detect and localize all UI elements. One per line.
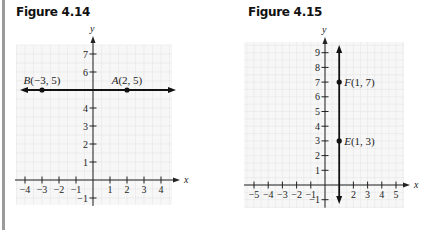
y-tick-label: 1 xyxy=(83,157,88,168)
y-tick-label: 4 xyxy=(315,121,320,132)
figure-4-14-plot: xy−4−3−2−11234−1123467B(−3, 5)A(2, 5) xyxy=(15,23,189,206)
y-axis-label: y xyxy=(89,23,95,34)
y-tick-label: 3 xyxy=(83,121,88,132)
y-tick-label: 6 xyxy=(315,91,320,102)
y-axis-arrow-icon xyxy=(323,37,328,44)
y-tick-label: 4 xyxy=(83,103,88,114)
point-label-E: E(1, 3) xyxy=(343,135,375,148)
x-tick-label: 2 xyxy=(351,189,356,200)
x-tick-label: −4 xyxy=(263,189,274,200)
x-axis-label: x xyxy=(413,179,419,190)
x-axis-label: x xyxy=(183,174,189,185)
y-axis-label: y xyxy=(321,24,327,35)
y-axis-arrow-icon xyxy=(91,36,96,43)
point-E xyxy=(337,138,342,143)
x-tick-label: −3 xyxy=(277,189,288,200)
figure-4-15-plot: xy−5−4−3−2−12345−1123456789F(1, 7)E(1, 3… xyxy=(244,24,419,208)
y-tick-label: 8 xyxy=(315,62,320,73)
point-label-F: F(1, 7) xyxy=(343,76,375,89)
y-tick-label: 5 xyxy=(315,106,320,117)
point-F xyxy=(337,80,342,85)
x-tick-label: −2 xyxy=(291,189,302,200)
x-axis-arrow-icon xyxy=(403,183,410,188)
x-tick-label: −5 xyxy=(249,189,260,200)
x-tick-label: −4 xyxy=(20,184,31,195)
y-tick-label: 6 xyxy=(83,67,88,78)
point-A xyxy=(124,87,129,92)
y-tick-label: 9 xyxy=(315,47,320,58)
y-tick-label: 7 xyxy=(315,77,320,88)
x-tick-label: 4 xyxy=(159,184,164,195)
x-tick-label: 5 xyxy=(394,189,399,200)
y-tick-label: −1 xyxy=(309,194,320,205)
y-tick-label: 3 xyxy=(315,135,320,146)
x-tick-label: −2 xyxy=(54,184,65,195)
y-tick-label: −1 xyxy=(77,193,88,204)
y-tick-label: 2 xyxy=(83,139,88,150)
x-axis-arrow-icon xyxy=(173,178,180,183)
x-tick-label: 4 xyxy=(379,189,384,200)
x-tick-label: 3 xyxy=(142,184,147,195)
x-tick-label: 3 xyxy=(365,189,370,200)
x-tick-label: 1 xyxy=(108,184,113,195)
point-label-B: B(−3, 5) xyxy=(24,74,61,87)
x-tick-label: 2 xyxy=(125,184,130,195)
point-B xyxy=(39,87,44,92)
y-tick-label: 1 xyxy=(315,165,320,176)
figures-canvas: xy−4−3−2−11234−1123467B(−3, 5)A(2, 5) xy… xyxy=(0,0,427,230)
grid-background xyxy=(16,45,172,205)
y-tick-label: 2 xyxy=(315,150,320,161)
y-tick-label: 7 xyxy=(83,49,88,60)
x-tick-label: −3 xyxy=(37,184,48,195)
point-label-A: A(2, 5) xyxy=(111,74,143,87)
